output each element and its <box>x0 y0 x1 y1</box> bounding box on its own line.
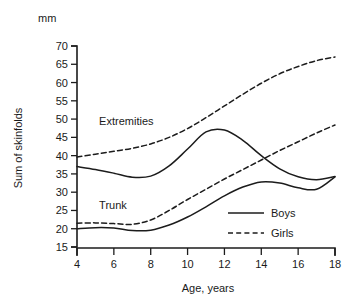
x-axis-tick-label: 18 <box>329 258 341 270</box>
legend-label-boys: Boys <box>271 207 296 219</box>
y-axis-tick-label: 15 <box>56 241 68 253</box>
x-axis: 4681012141618 <box>74 248 341 270</box>
annotation-trunk: Trunk <box>99 199 127 211</box>
y-axis-spine <box>71 46 77 247</box>
y-axis-unit-label: mm <box>38 12 56 24</box>
x-axis-tick-label: 4 <box>74 258 80 270</box>
x-axis-title-text: Age, years <box>182 282 235 294</box>
x-axis-tick-label: 10 <box>181 258 193 270</box>
y-axis-tick-label: 55 <box>56 95 68 107</box>
plot-annotations: ExtremitiesTrunk <box>99 115 154 211</box>
x-axis-title: Age, years <box>182 282 235 294</box>
skinfolds-line-chart: mm Sum of skinfolds Age, years 152025303… <box>0 0 352 304</box>
y-axis-tick-label: 25 <box>56 204 68 216</box>
x-axis-tick-label: 6 <box>111 258 117 270</box>
y-axis-tick-label: 20 <box>56 223 68 235</box>
y-axis-title-text: Sum of skinfolds <box>12 107 24 188</box>
x-axis-tick-label: 12 <box>218 258 230 270</box>
x-axis-spine <box>77 248 335 256</box>
y-axis-tick-label: 35 <box>56 168 68 180</box>
y-axis-tick-label: 40 <box>56 150 68 162</box>
series-line-extremities-boys <box>77 129 335 180</box>
y-axis-tick-label: 45 <box>56 131 68 143</box>
y-axis: 152025303540455055606570 <box>56 40 77 253</box>
chart-legend: BoysGirls <box>228 207 296 239</box>
y-axis-tick-label: 60 <box>56 77 68 89</box>
chart-figure: mm Sum of skinfolds Age, years 152025303… <box>0 0 352 304</box>
legend-label-girls: Girls <box>271 227 294 239</box>
x-axis-tick-label: 8 <box>148 258 154 270</box>
y-axis-tick-label: 70 <box>56 40 68 52</box>
x-axis-tick-label: 16 <box>292 258 304 270</box>
unit-label-text: mm <box>38 12 56 24</box>
y-axis-tick-label: 30 <box>56 186 68 198</box>
annotation-extremities: Extremities <box>99 115 154 127</box>
y-axis-tick-label: 50 <box>56 113 68 125</box>
y-axis-tick-label: 65 <box>56 58 68 70</box>
x-axis-tick-label: 14 <box>255 258 267 270</box>
y-axis-title: Sum of skinfolds <box>12 107 24 188</box>
